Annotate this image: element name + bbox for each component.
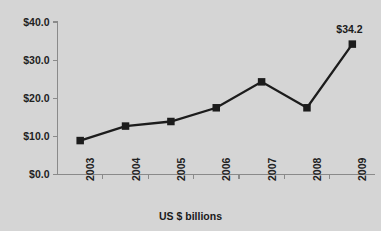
x-axis-tick-label: 2007 (267, 157, 278, 180)
x-axis-tick-label: 2009 (357, 157, 368, 180)
y-axis-tick-label: $30.0 (23, 55, 49, 66)
y-axis-tick-label: $20.0 (23, 93, 49, 104)
series-line-us-dollars-billions (80, 44, 352, 140)
x-axis-tick-label: 2004 (131, 157, 142, 180)
line-chart: $0.0$10.0$20.0$30.0$40.0 200320042005200… (0, 0, 381, 231)
chart-plot-area (0, 0, 381, 231)
y-axis-tick-label: $0.0 (29, 169, 49, 180)
x-axis-title: US $ billions (0, 211, 381, 222)
data-point-marker (303, 104, 311, 112)
x-axis-tick-label: 2003 (85, 157, 96, 180)
data-point-marker (258, 78, 266, 86)
data-point-marker (122, 122, 129, 130)
x-axis-tick-label: 2008 (312, 157, 323, 180)
y-axis-tick-label: $10.0 (23, 131, 49, 142)
data-point-marker (213, 104, 221, 112)
data-point-label: $34.2 (336, 24, 362, 35)
axes-group (58, 21, 376, 175)
data-point-marker (349, 40, 357, 48)
data-point-marker (76, 137, 84, 145)
x-axis-tick-label: 2005 (176, 157, 187, 180)
x-axis-tick-label: 2006 (221, 157, 232, 180)
y-axis-tick-label: $40.0 (23, 17, 49, 28)
data-point-marker (167, 118, 175, 126)
